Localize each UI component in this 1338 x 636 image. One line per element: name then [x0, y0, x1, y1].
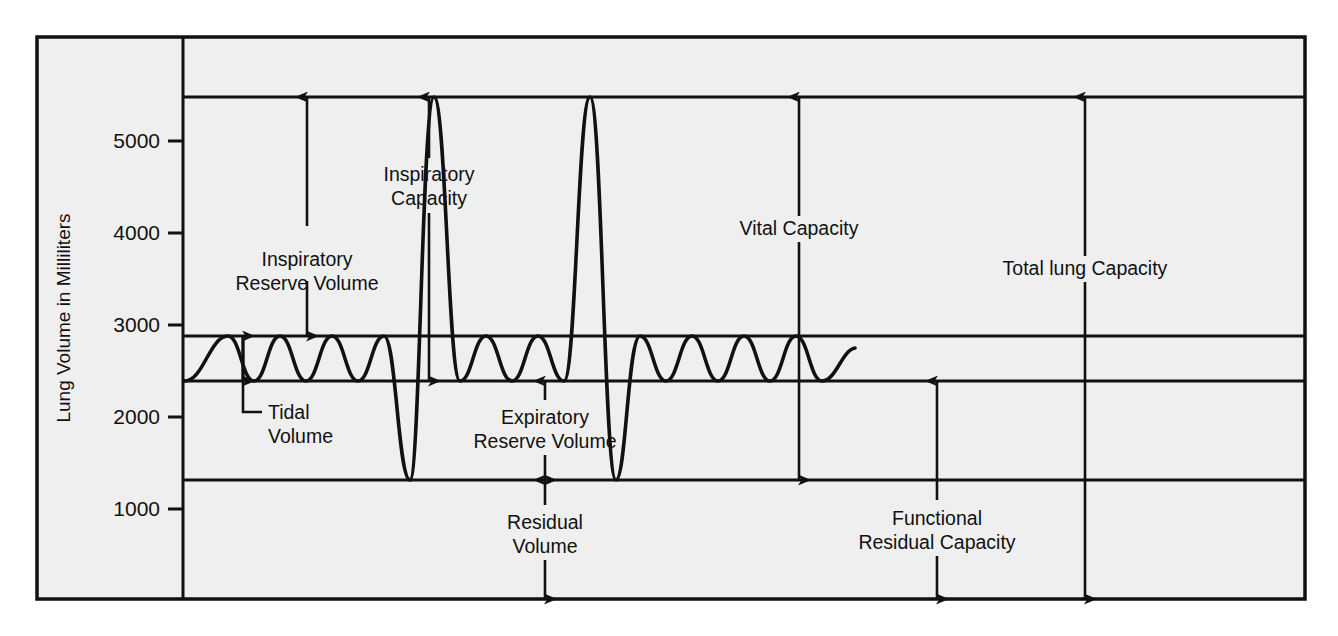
tidal-volume-label-line1: Tidal: [268, 401, 310, 423]
rv-label-line1: Residual: [507, 511, 583, 533]
erv-label-line2: Reserve Volume: [473, 430, 616, 452]
panel-background: [37, 37, 1305, 599]
tidal-volume-label-line2: Volume: [268, 425, 333, 447]
y-tick-label-1000: 1000: [113, 497, 160, 520]
lung-volumes-spirogram: 5000 4000 3000 2000 1000 Lung Volume in …: [0, 0, 1338, 636]
ic-label-line2: Capacity: [391, 187, 467, 209]
y-tick-label-2000: 2000: [113, 405, 160, 428]
ic-label-line1: Inspiratory: [383, 163, 474, 185]
y-axis-title: Lung Volume in Milliliters: [53, 213, 74, 422]
y-tick-label-4000: 4000: [113, 221, 160, 244]
rv-label-line2: Volume: [512, 535, 577, 557]
vc-label-line1: Vital Capacity: [740, 217, 859, 239]
erv-label-line1: Expiratory: [501, 406, 589, 428]
tlc-label-line1: Total lung Capacity: [1003, 257, 1168, 279]
y-tick-label-3000: 3000: [113, 313, 160, 336]
figure-container: 5000 4000 3000 2000 1000 Lung Volume in …: [0, 0, 1338, 636]
frc-label-line2: Residual Capacity: [858, 531, 1015, 553]
frc-label-line1: Functional: [892, 507, 982, 529]
irv-label-line2: Reserve Volume: [235, 272, 378, 294]
irv-label-line1: Inspiratory: [261, 248, 352, 270]
y-tick-label-5000: 5000: [113, 129, 160, 152]
